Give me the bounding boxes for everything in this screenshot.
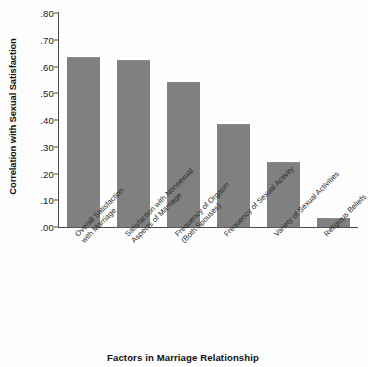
y-tick-label: .40 [40,115,54,126]
y-axis-title-text: Correlation with Sexual Satisfaction [7,38,18,194]
y-tick-label: .80 [40,8,54,19]
y-tick-label: .60 [40,61,54,72]
y-axis-tick-labels: .80.70.60.50.40.30.20.10.00 [26,10,56,234]
y-tick-mark [54,13,58,14]
y-axis-title: Correlation with Sexual Satisfaction [0,0,24,232]
y-tick-mark [54,66,58,67]
y-tick-mark [54,120,58,121]
bar [67,57,100,227]
y-tick-label: .10 [40,195,54,206]
y-tick-mark [54,146,58,147]
y-tick-label: .70 [40,34,54,45]
y-tick-label: .50 [40,88,54,99]
y-tick-label: .30 [40,141,54,152]
y-tick-mark [54,173,58,174]
y-tick-mark [54,200,58,201]
y-tick-mark [54,93,58,94]
y-tick-label: .00 [40,222,54,233]
y-tick-label: .20 [40,168,54,179]
x-axis-title: Factors in Marriage Relationship [0,352,366,363]
x-axis-category-labels: Overall Satisfactionwith MarriageSatisfa… [58,228,358,340]
y-tick-mark [54,39,58,40]
